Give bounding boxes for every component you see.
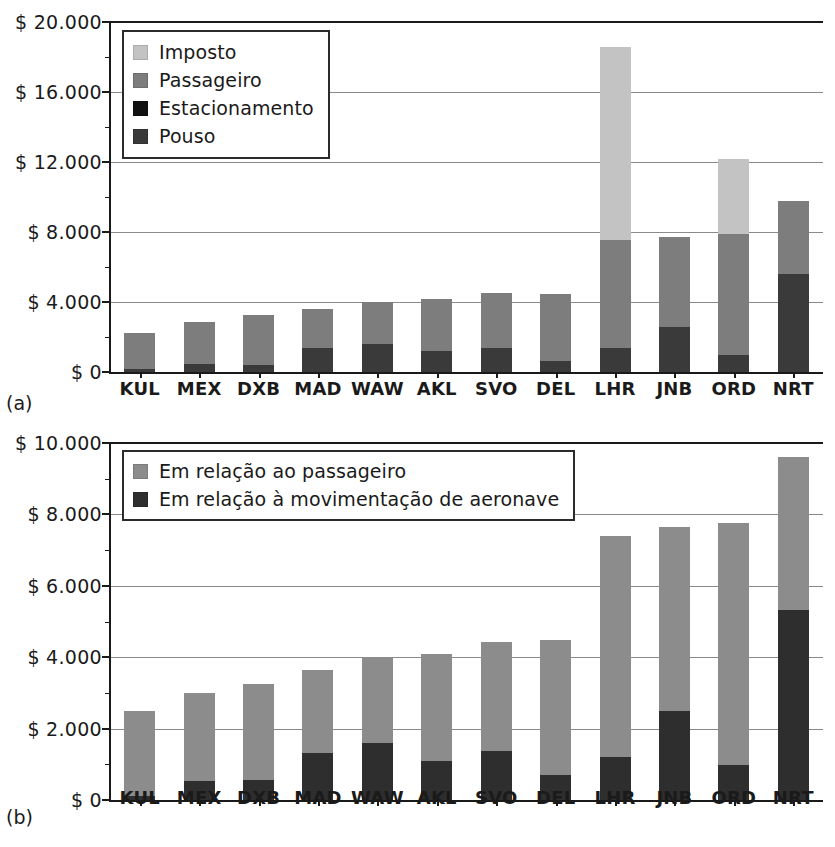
x-axis-tick-label: DEL bbox=[526, 378, 585, 399]
y-axis-tick bbox=[102, 728, 111, 730]
y-axis-tick bbox=[102, 656, 111, 658]
legend-item: Pouso bbox=[133, 122, 314, 150]
bar-segment bbox=[481, 348, 512, 373]
y-axis-tick-label: $ 10.000 bbox=[15, 432, 102, 454]
x-axis-tick-label: DXB bbox=[229, 378, 288, 399]
gridline bbox=[110, 586, 823, 587]
y-axis-tick bbox=[102, 442, 111, 444]
legend-item-label: Imposto bbox=[159, 41, 236, 63]
bar-segment bbox=[540, 294, 571, 361]
y-axis-tick-label: $ 2.000 bbox=[27, 718, 102, 740]
bar-mad bbox=[302, 309, 333, 372]
y-axis-minor-tick bbox=[105, 622, 111, 623]
y-axis-labels-b: $ 0$ 2.000$ 4.000$ 6.000$ 8.000$ 10.000 bbox=[0, 443, 102, 800]
gridline bbox=[110, 302, 823, 303]
panel-a-tag: (a) bbox=[6, 392, 32, 414]
bar-segment bbox=[659, 237, 690, 326]
x-axis-tick-label: DEL bbox=[526, 787, 585, 808]
bar-nrt bbox=[778, 457, 809, 800]
bar-ord bbox=[718, 523, 749, 800]
legend-item: Estacionamento bbox=[133, 94, 314, 122]
y-axis-tick bbox=[102, 513, 111, 515]
y-axis-minor-tick bbox=[105, 127, 111, 128]
x-axis-tick-label: SVO bbox=[467, 378, 526, 399]
y-axis-tick-label: $ 8.000 bbox=[27, 221, 102, 243]
bar-segment bbox=[184, 364, 215, 372]
x-axis-tick-label: SVO bbox=[467, 787, 526, 808]
y-axis-minor-tick bbox=[105, 267, 111, 268]
y-axis-labels-a: $ 0$ 4.000$ 8.000$ 12.000$ 16.000$ 20.00… bbox=[0, 22, 102, 372]
bar-akl bbox=[421, 654, 452, 800]
bar-del bbox=[540, 640, 571, 800]
gridline bbox=[110, 21, 823, 23]
bar-segment bbox=[540, 640, 571, 775]
y-axis-minor-tick bbox=[105, 693, 111, 694]
legend-swatch-icon bbox=[133, 464, 148, 479]
legend-a: ImpostoPassageiroEstacionamentoPouso bbox=[122, 30, 330, 159]
bar-akl bbox=[421, 299, 452, 372]
figure-container: $ 0$ 4.000$ 8.000$ 12.000$ 16.000$ 20.00… bbox=[0, 0, 835, 847]
legend-item-label: Em relação à movimentação de aeronave bbox=[159, 488, 559, 510]
gridline bbox=[110, 162, 823, 163]
bar-segment bbox=[718, 355, 749, 372]
y-axis-tick bbox=[102, 161, 111, 163]
x-axis-tick-label: NRT bbox=[764, 787, 823, 808]
legend-item-label: Estacionamento bbox=[159, 97, 314, 119]
y-axis-minor-tick bbox=[105, 337, 111, 338]
bar-ord bbox=[718, 159, 749, 373]
legend-b: Em relação ao passageiroEm relação à mov… bbox=[122, 450, 575, 521]
bar-segment bbox=[302, 670, 333, 753]
y-axis-tick-label: $ 0 bbox=[71, 789, 102, 811]
x-axis-tick-label: MAD bbox=[288, 787, 347, 808]
y-axis-tick-label: $ 20.000 bbox=[15, 11, 102, 33]
bar-segment bbox=[243, 315, 274, 365]
legend-item-label: Em relação ao passageiro bbox=[159, 460, 406, 482]
y-axis-tick bbox=[102, 21, 111, 23]
bar-segment bbox=[243, 684, 274, 780]
legend-item-label: Pouso bbox=[159, 125, 215, 147]
bar-dxb bbox=[243, 315, 274, 372]
legend-swatch-icon bbox=[133, 45, 148, 60]
legend-item: Em relação ao passageiro bbox=[133, 457, 559, 485]
y-axis-tick bbox=[102, 585, 111, 587]
bar-segment bbox=[718, 523, 749, 765]
y-axis-tick bbox=[102, 371, 111, 373]
bar-lhr bbox=[600, 536, 631, 800]
bar-segment bbox=[302, 309, 333, 348]
y-axis-minor-tick bbox=[105, 197, 111, 198]
x-axis-labels-a: KULMEXDXBMADWAWAKLSVODELLHRJNBORDNRT bbox=[110, 378, 823, 399]
y-axis-tick-label: $ 6.000 bbox=[27, 575, 102, 597]
bar-nrt bbox=[778, 201, 809, 373]
panel-b-tag: (b) bbox=[6, 806, 33, 828]
bar-dxb bbox=[243, 684, 274, 800]
x-axis-tick-label: MEX bbox=[169, 378, 228, 399]
bar-svo bbox=[481, 293, 512, 372]
y-axis-minor-tick bbox=[105, 764, 111, 765]
y-axis-tick-label: $ 16.000 bbox=[15, 81, 102, 103]
legend-swatch-icon bbox=[133, 492, 148, 507]
bar-kul bbox=[124, 333, 155, 372]
bar-segment bbox=[243, 365, 274, 372]
x-axis-tick-label: JNB bbox=[645, 787, 704, 808]
y-axis-tick bbox=[102, 91, 111, 93]
chart-panel-b: $ 0$ 2.000$ 4.000$ 6.000$ 8.000$ 10.000 … bbox=[0, 424, 835, 847]
legend-swatch-icon bbox=[133, 101, 148, 116]
bar-segment bbox=[362, 344, 393, 372]
x-axis-tick-label: JNB bbox=[645, 378, 704, 399]
y-axis-tick-label: $ 0 bbox=[71, 361, 102, 383]
bar-segment bbox=[600, 348, 631, 372]
legend-item-label: Passageiro bbox=[159, 69, 262, 91]
bar-segment bbox=[778, 274, 809, 372]
y-axis-tick-label: $ 4.000 bbox=[27, 646, 102, 668]
gridline bbox=[110, 232, 823, 233]
bar-waw bbox=[362, 657, 393, 800]
legend-swatch-icon bbox=[133, 129, 148, 144]
x-axis-tick-label: ORD bbox=[704, 787, 763, 808]
bar-svo bbox=[481, 642, 512, 800]
gridline bbox=[110, 442, 823, 444]
y-axis-tick-label: $ 4.000 bbox=[27, 291, 102, 313]
bar-segment bbox=[718, 234, 749, 356]
bar-lhr bbox=[600, 47, 631, 373]
bar-segment bbox=[302, 348, 333, 372]
bar-segment bbox=[600, 47, 631, 240]
